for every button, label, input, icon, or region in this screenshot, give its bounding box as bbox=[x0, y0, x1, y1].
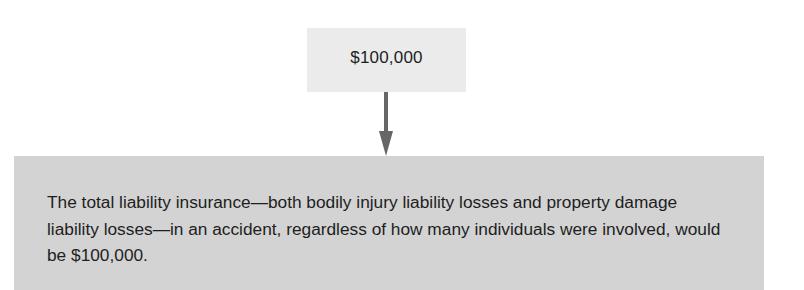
explanation-box: The total liability insurance—both bodil… bbox=[14, 156, 764, 290]
explanation-text: The total liability insurance—both bodil… bbox=[47, 189, 727, 269]
down-arrow-shaft bbox=[384, 92, 388, 132]
down-arrow-icon bbox=[379, 131, 393, 156]
limit-amount-box: $100,000 bbox=[307, 28, 466, 92]
limit-amount-label: $100,000 bbox=[350, 48, 423, 68]
